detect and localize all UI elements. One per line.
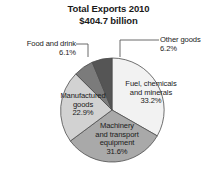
slice-label-food-and-drink: Food and drink 6.1%: [6, 40, 76, 57]
leader-line-food-and-drink: [76, 44, 88, 57]
slice-label-machinery-transport-equipment: Machinery and transport equipment 31.6%: [86, 122, 148, 156]
pie-chart-figure: Total Exports 2010 $404.7 billion Fuel, …: [0, 0, 217, 179]
slice-value-fuel-chemicals-minerals: 33.2%: [120, 97, 182, 106]
leader-line-other-goods: [120, 40, 159, 57]
slice-label-manufactured-goods: Manufactured goods 22.9%: [52, 92, 114, 118]
slice-label-fuel-chemicals-minerals: Fuel, chemicals and minerals 33.2%: [120, 80, 182, 106]
slice-value-machinery-transport-equipment: 31.6%: [86, 148, 148, 157]
slice-label-other-goods: Other goods 6.2%: [160, 36, 216, 53]
slice-value-other-goods: 6.2%: [160, 45, 216, 54]
slice-value-food-and-drink: 6.1%: [6, 49, 76, 58]
slice-value-manufactured-goods: 22.9%: [52, 109, 114, 118]
